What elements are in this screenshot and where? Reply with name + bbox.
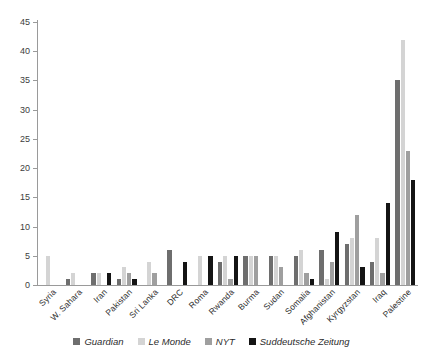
bar bbox=[380, 273, 384, 285]
bar bbox=[274, 256, 278, 285]
x-axis-label: Rwanda bbox=[206, 287, 236, 317]
x-axis-label: Syria bbox=[37, 287, 58, 308]
bar bbox=[127, 273, 131, 285]
bar bbox=[411, 180, 415, 285]
y-axis-tick bbox=[33, 80, 37, 81]
y-axis-tick-label: 35 bbox=[20, 76, 30, 85]
y-axis-tick-label: 0 bbox=[25, 281, 30, 290]
legend-item[interactable]: Guardian bbox=[73, 336, 123, 347]
legend-label: Guardian bbox=[84, 336, 123, 347]
legend-swatch-icon bbox=[205, 338, 212, 345]
bar-group bbox=[142, 22, 162, 285]
bar bbox=[198, 256, 202, 285]
bar bbox=[406, 151, 410, 285]
y-axis-tick bbox=[33, 256, 37, 257]
y-axis-tick-label: 25 bbox=[20, 134, 30, 143]
y-axis-ticks: 051015202530354045 bbox=[0, 0, 37, 306]
bar bbox=[370, 262, 374, 285]
bar bbox=[223, 256, 227, 285]
bar-group bbox=[269, 22, 289, 285]
bar bbox=[355, 215, 359, 285]
chart-legend: GuardianLe MondeNYTSuddeutsche Zeitung bbox=[0, 336, 423, 347]
bar bbox=[147, 262, 151, 285]
bar-group bbox=[370, 22, 390, 285]
bar-group bbox=[294, 22, 314, 285]
y-axis-tick bbox=[33, 110, 37, 111]
bar bbox=[345, 244, 349, 285]
bar bbox=[325, 279, 329, 285]
bar bbox=[279, 267, 283, 285]
x-axis-line bbox=[37, 285, 418, 286]
bar-group bbox=[41, 22, 61, 285]
y-axis-tick-label: 15 bbox=[20, 193, 30, 202]
bar-group bbox=[395, 22, 415, 285]
bar bbox=[91, 273, 95, 285]
bar bbox=[335, 232, 339, 285]
y-axis-tick-label: 45 bbox=[20, 18, 30, 27]
legend-item[interactable]: NYT bbox=[205, 336, 235, 347]
legend-label: NYT bbox=[216, 336, 235, 347]
bar bbox=[269, 256, 273, 285]
x-axis-tick-label: Rwanda bbox=[206, 287, 236, 317]
legend-item[interactable]: Le Monde bbox=[138, 336, 191, 347]
y-axis-tick bbox=[33, 51, 37, 52]
bar bbox=[228, 279, 232, 285]
bar-group bbox=[66, 22, 86, 285]
y-axis-tick bbox=[33, 285, 37, 286]
x-axis-tick-label: DRC bbox=[165, 287, 185, 307]
bar bbox=[299, 250, 303, 285]
bar bbox=[350, 238, 354, 285]
bar bbox=[249, 256, 253, 285]
y-axis-tick-label: 20 bbox=[20, 164, 30, 173]
bar bbox=[218, 262, 222, 285]
bar bbox=[304, 273, 308, 285]
bar bbox=[386, 203, 390, 285]
bar bbox=[132, 279, 136, 285]
plot-area bbox=[38, 22, 418, 285]
x-axis-tick-label: Iraq bbox=[370, 287, 388, 305]
x-axis-label: Iran bbox=[91, 287, 109, 305]
bar-group bbox=[319, 22, 339, 285]
y-axis-tick bbox=[33, 139, 37, 140]
y-axis-tick bbox=[33, 168, 37, 169]
y-axis-tick-label: 30 bbox=[20, 105, 30, 114]
y-axis-tick bbox=[33, 227, 37, 228]
x-axis-label: Burma bbox=[236, 287, 261, 312]
y-axis-tick-label: 5 bbox=[25, 251, 30, 260]
bar-group bbox=[91, 22, 111, 285]
bar bbox=[66, 279, 70, 285]
y-axis-tick-label: 40 bbox=[20, 47, 30, 56]
y-axis-tick bbox=[33, 197, 37, 198]
bar-group bbox=[345, 22, 365, 285]
legend-swatch-icon bbox=[73, 338, 80, 345]
bar-group bbox=[117, 22, 137, 285]
bar bbox=[152, 273, 156, 285]
y-axis-tick-label: 10 bbox=[20, 222, 30, 231]
bar bbox=[117, 279, 121, 285]
legend-label: Le Monde bbox=[149, 336, 191, 347]
bar-group bbox=[218, 22, 238, 285]
x-axis-label: Roma bbox=[187, 287, 210, 310]
x-axis-tick-label: Iran bbox=[91, 287, 109, 305]
legend-label: Suddeutsche Zeitung bbox=[260, 336, 350, 347]
bar bbox=[234, 256, 238, 285]
bar bbox=[167, 250, 171, 285]
bar bbox=[243, 256, 247, 285]
bar bbox=[122, 267, 126, 285]
legend-item[interactable]: Suddeutsche Zeitung bbox=[249, 336, 350, 347]
bar bbox=[46, 256, 50, 285]
bar bbox=[183, 262, 187, 285]
x-axis-tick-label: Syria bbox=[37, 287, 58, 308]
bar-group bbox=[243, 22, 263, 285]
bar bbox=[71, 273, 75, 285]
x-axis-label: DRC bbox=[165, 287, 185, 307]
bar bbox=[330, 262, 334, 285]
bar bbox=[310, 279, 314, 285]
bar-chart: 051015202530354045 SyriaW. SaharaIranPak… bbox=[0, 0, 423, 356]
legend-swatch-icon bbox=[138, 338, 145, 345]
bar bbox=[97, 273, 101, 285]
x-axis-tick-label: Burma bbox=[236, 287, 261, 312]
bar bbox=[254, 256, 258, 285]
bar bbox=[319, 250, 323, 285]
bar bbox=[395, 80, 399, 285]
